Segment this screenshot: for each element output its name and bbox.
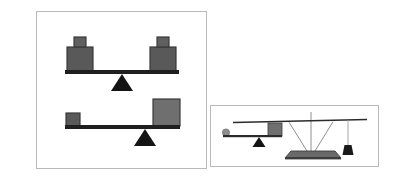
right-load-stack [150,37,176,71]
unbalanced-lever-beam [65,125,180,129]
balanced-lever-scene [65,37,179,91]
box-weight [268,123,282,136]
balanced-lever-fulcrum [111,74,133,91]
hanging-weight [343,145,354,155]
balance-scale-panel [210,105,379,167]
ball-and-box-lever-scene [222,123,282,147]
balance-scale-svg [211,106,378,166]
balance-beam [233,120,367,123]
lever-diagram-panel [36,11,207,169]
unbalanced-lever-fulcrum [134,129,156,146]
left-small-block [66,113,80,126]
lever-diagram-svg [37,12,206,168]
pan-support-arm-right [315,122,333,151]
left-load-stack [67,37,93,71]
weighing-pan [285,151,341,158]
right-small-block-cap [157,37,169,47]
weighing-pan-base [285,157,341,159]
ball-lever-beam [223,135,282,137]
pan-support-arm-left [289,122,307,151]
right-large-block [150,47,176,71]
balanced-lever-beam [65,70,179,74]
figure-canvas [0,0,393,195]
left-large-block [67,47,93,71]
right-large-block [153,99,180,126]
ball-lever-fulcrum [253,137,266,147]
unbalanced-lever-scene [65,99,180,146]
left-small-block-cap [74,37,86,47]
